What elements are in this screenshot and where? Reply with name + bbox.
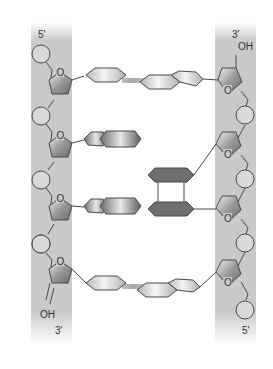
left-pyrimidine-4 <box>86 276 126 290</box>
dna-diagram: 5' 3' 3' 5' O O O O <box>0 0 273 369</box>
right-terminal-oh: OH <box>238 41 253 52</box>
base-row-2 <box>84 131 141 147</box>
sugar-ring-oxygen: O <box>57 130 65 141</box>
left-phosphate-5 <box>32 235 50 253</box>
right-3prime-label: 3' <box>232 29 240 40</box>
sugar-ring-oxygen: O <box>224 277 232 288</box>
sugar-ring-oxygen: O <box>57 67 65 78</box>
sugar-ring-oxygen: O <box>224 85 232 96</box>
pyrimidine-dimer <box>148 144 216 216</box>
right-phosphate-2 <box>236 170 254 188</box>
base-pair-4 <box>86 272 216 297</box>
sugar-ring-oxygen: O <box>57 256 65 267</box>
right-phosphate-1 <box>236 106 254 124</box>
left-purine-hex-2 <box>100 131 141 147</box>
sugar-ring-oxygen: O <box>57 193 65 204</box>
left-purine-hex-3 <box>100 198 141 214</box>
right-5prime-label: 5' <box>242 325 250 336</box>
left-phosphate-3 <box>32 171 50 189</box>
left-pyrimidine-1 <box>86 68 126 82</box>
base-row-3 <box>84 198 141 214</box>
left-3prime-label: 3' <box>55 325 63 336</box>
left-phosphate-1 <box>32 45 50 63</box>
right-phosphate-4 <box>236 301 254 319</box>
dimer-upper-ring <box>148 168 194 182</box>
left-phosphate-2 <box>32 107 50 125</box>
sugar-ring-oxygen: O <box>224 213 232 224</box>
left-terminal-oh: OH <box>40 309 55 320</box>
base-pair-1 <box>86 68 218 89</box>
left-5prime-label: 5' <box>38 29 46 40</box>
right-phosphate-3 <box>236 234 254 252</box>
dimer-lower-ring <box>148 202 194 216</box>
sugar-ring-oxygen: O <box>224 149 232 160</box>
